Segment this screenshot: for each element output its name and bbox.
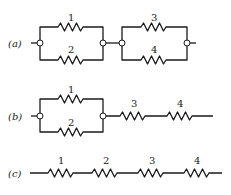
caption-a: (a): [8, 38, 22, 49]
circuit-a: (a) 1 2 3 4: [8, 12, 196, 64]
node-icon: [37, 40, 43, 46]
label-2-c: 2: [103, 155, 109, 166]
resistor-3-a: [122, 23, 187, 43]
resistor-diagram: (a) 1 2 3 4 (b) 1 2 3 4 (c): [0, 0, 231, 195]
node-icon: [184, 40, 190, 46]
label-1-a: 1: [68, 12, 74, 23]
label-4-b: 4: [177, 98, 183, 109]
node-icon: [37, 113, 43, 119]
label-3-a: 3: [151, 12, 157, 23]
resistor-1-b: [40, 95, 103, 116]
caption-c: (c): [8, 168, 22, 179]
label-2-b: 2: [68, 117, 74, 128]
node-icon: [100, 40, 106, 46]
label-3-b: 3: [131, 98, 137, 109]
caption-b: (b): [8, 111, 22, 122]
node-icon: [119, 40, 125, 46]
resistors-series-c: [30, 169, 222, 177]
label-4-a: 4: [151, 44, 157, 55]
circuit-b: (b) 1 2 3 4: [8, 84, 213, 136]
resistor-1-a: [40, 23, 103, 43]
label-1-c: 1: [58, 155, 64, 166]
node-icon: [100, 113, 106, 119]
label-1-b: 1: [68, 84, 74, 95]
circuit-c: (c) 1 2 3 4: [8, 155, 222, 179]
resistors-3-4-b: [106, 112, 213, 120]
label-3-c: 3: [149, 155, 155, 166]
label-2-a: 2: [68, 44, 74, 55]
label-4-c: 4: [194, 155, 200, 166]
